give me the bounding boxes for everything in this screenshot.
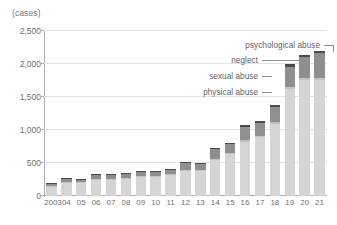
x-tick-label: 11 (163, 199, 178, 208)
bar-segment-psychological-abuse (136, 171, 146, 172)
bar-group[interactable] (314, 51, 324, 196)
bar-segment-physical-abuse (106, 179, 116, 196)
y-tick-label: 2,500 (1, 27, 41, 36)
bar-group[interactable] (240, 125, 250, 196)
bar-segment-sexual-abuse (270, 122, 280, 124)
bar-group[interactable] (210, 148, 220, 196)
stacked-bar-chart: (cases) 05001,0001,5002,0002,500 2003040… (0, 0, 337, 225)
bar-group[interactable] (285, 64, 295, 196)
x-tick-label: 08 (118, 199, 133, 208)
bar-group[interactable] (106, 174, 116, 196)
bar-group[interactable] (299, 55, 309, 196)
bar-segment-sexual-abuse (210, 159, 220, 160)
bar-segment-physical-abuse (195, 171, 205, 196)
bar-segment-physical-abuse (285, 89, 295, 196)
bar-segment-sexual-abuse (314, 78, 324, 80)
bar-segment-sexual-abuse (180, 170, 190, 171)
bar-segment-psychological-abuse (46, 183, 56, 184)
bar-segment-physical-abuse (299, 80, 309, 196)
bar-segment-neglect (299, 57, 309, 78)
bar-segment-physical-abuse (91, 180, 101, 197)
bar-segment-neglect (270, 107, 280, 122)
x-tick-label: 05 (74, 199, 89, 208)
x-tick-label: 17 (253, 199, 268, 208)
bar-group[interactable] (61, 178, 71, 196)
bar-segment-sexual-abuse (285, 87, 295, 89)
bar-segment-psychological-abuse (314, 51, 324, 54)
bar-segment-psychological-abuse (210, 148, 220, 149)
bar-segment-neglect (285, 67, 295, 87)
x-axis-tick-labels: 2003040506070809101112131415161718192021 (44, 199, 327, 213)
bar-segment-neglect (225, 144, 235, 153)
x-tick-label: 20 (297, 199, 312, 208)
x-tick-label: 16 (238, 199, 253, 208)
x-tick-label: 2003 (44, 199, 59, 208)
bar-segment-sexual-abuse (106, 179, 116, 180)
x-tick-label: 12 (178, 199, 193, 208)
y-tick-label: 1,000 (1, 126, 41, 135)
bar-segment-sexual-abuse (91, 179, 101, 180)
bar-segment-psychological-abuse (61, 178, 71, 179)
bar-segment-psychological-abuse (240, 125, 250, 127)
bar-segment-physical-abuse (255, 137, 265, 196)
y-tick-label: 0 (1, 192, 41, 201)
bar-segment-neglect (210, 149, 220, 159)
bar-segment-sexual-abuse (165, 174, 175, 175)
bar-segment-sexual-abuse (121, 178, 131, 179)
bar-segment-neglect (255, 123, 265, 136)
bar-segment-physical-abuse (61, 182, 71, 196)
bar-segment-psychological-abuse (299, 55, 309, 58)
x-tick-label: 10 (148, 199, 163, 208)
bar-segment-sexual-abuse (225, 153, 235, 154)
bar-group[interactable] (225, 142, 235, 196)
x-tick-label: 04 (59, 199, 74, 208)
bar-group[interactable] (270, 105, 280, 196)
bar-segment-sexual-abuse (255, 136, 265, 137)
bar-group[interactable] (46, 183, 56, 196)
bar-segment-sexual-abuse (76, 182, 86, 183)
bar-segment-psychological-abuse (121, 173, 131, 174)
x-tick-label: 09 (133, 199, 148, 208)
bar-segment-neglect (61, 179, 71, 182)
bar-segment-physical-abuse (46, 186, 56, 196)
bar-segment-physical-abuse (136, 177, 146, 196)
bar-segment-psychological-abuse (165, 169, 175, 170)
bar-segment-neglect (46, 184, 56, 186)
bar-group[interactable] (136, 171, 146, 196)
bar-segment-neglect (136, 172, 146, 176)
bar-segment-sexual-abuse (136, 176, 146, 177)
bar-segment-physical-abuse (225, 153, 235, 196)
bar-group[interactable] (195, 163, 205, 196)
x-tick-label: 14 (208, 199, 223, 208)
bar-group[interactable] (121, 173, 131, 196)
x-tick-label: 06 (89, 199, 104, 208)
bars-layer (44, 31, 327, 196)
bar-group[interactable] (150, 171, 160, 196)
bar-segment-psychological-abuse (91, 174, 101, 175)
bar-group[interactable] (255, 121, 265, 196)
bar-segment-physical-abuse (165, 175, 175, 196)
bar-segment-neglect (240, 127, 250, 141)
bar-segment-neglect (180, 163, 190, 169)
bar-segment-neglect (121, 174, 131, 178)
bar-group[interactable] (76, 179, 86, 196)
y-axis-unit-label: (cases) (12, 8, 41, 18)
bar-group[interactable] (165, 169, 175, 196)
bar-segment-psychological-abuse (255, 121, 265, 123)
bar-segment-sexual-abuse (150, 176, 160, 177)
bar-segment-sexual-abuse (61, 182, 71, 183)
bar-segment-psychological-abuse (285, 64, 295, 67)
x-tick-label: 07 (104, 199, 119, 208)
bar-segment-neglect (314, 53, 324, 77)
bar-group[interactable] (180, 162, 190, 196)
y-tick-label: 2,000 (1, 60, 41, 69)
bar-segment-physical-abuse (270, 124, 280, 196)
bar-segment-psychological-abuse (195, 163, 205, 164)
bar-group[interactable] (91, 174, 101, 196)
bar-segment-psychological-abuse (225, 143, 235, 144)
bar-segment-physical-abuse (76, 182, 86, 196)
bar-segment-neglect (195, 164, 205, 170)
x-tick-label: 15 (223, 199, 238, 208)
bar-segment-psychological-abuse (76, 179, 86, 180)
callout-leader-line-vertical (333, 45, 334, 52)
